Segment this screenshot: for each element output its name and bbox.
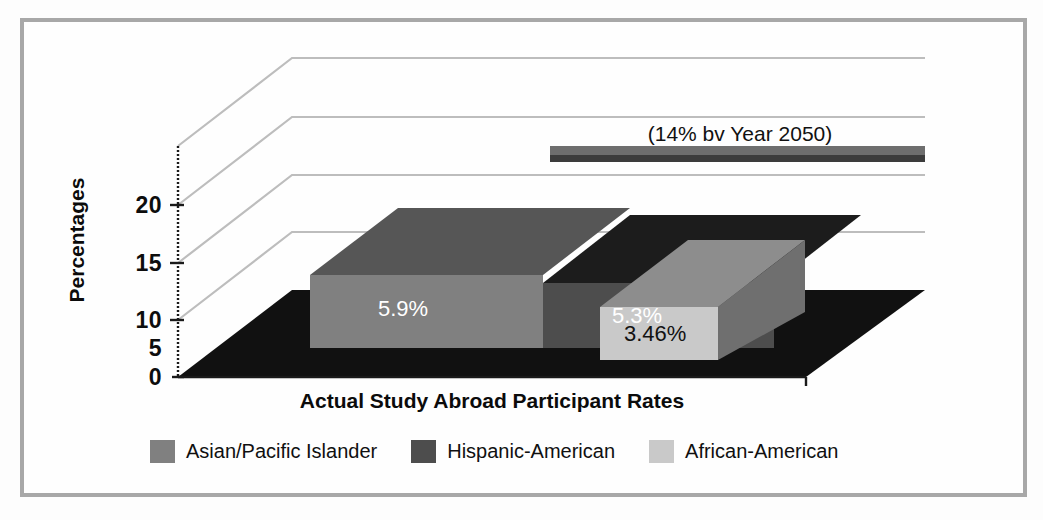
chart-page: 20 15 10 5 0 Percentages 5.9% 5.3% 3.46%…: [0, 0, 1043, 520]
legend-label: Asian/Pacific Islander: [186, 440, 377, 463]
chart-plot-area: 20 15 10 5 0 Percentages 5.9% 5.3% 3.46%…: [0, 0, 1043, 520]
legend-swatch-icon: [411, 440, 436, 463]
y-tick-label-5: 5: [110, 335, 162, 362]
y-tick-label-10: 10: [110, 307, 162, 334]
y-tick-label-0: 0: [110, 364, 162, 391]
legend-label: Hispanic-American: [447, 440, 615, 463]
legend-item-asian-pacific-islander[interactable]: Asian/Pacific Islander: [150, 440, 377, 463]
bar-3-value-label: 3.46%: [624, 321, 686, 347]
x-axis-title: Actual Study Abroad Participant Rates: [178, 389, 806, 413]
chart-legend: Asian/Pacific Islander Hispanic-American…: [150, 440, 910, 463]
bar-1-value-label: 5.9%: [378, 296, 428, 322]
legend-item-hispanic-american[interactable]: Hispanic-American: [411, 440, 615, 463]
y-tick-label-15: 15: [110, 250, 162, 277]
y-axis-title: Percentages: [65, 135, 89, 345]
legend-swatch-icon: [649, 440, 674, 463]
projection-annotation: (14% bv Year 2050): [600, 122, 880, 146]
y-tick-label-20: 20: [110, 192, 162, 219]
legend-label: African-American: [685, 440, 838, 463]
legend-swatch-icon: [150, 440, 175, 463]
legend-item-african-american[interactable]: African-American: [649, 440, 838, 463]
projection-reference-bar: [550, 146, 925, 162]
